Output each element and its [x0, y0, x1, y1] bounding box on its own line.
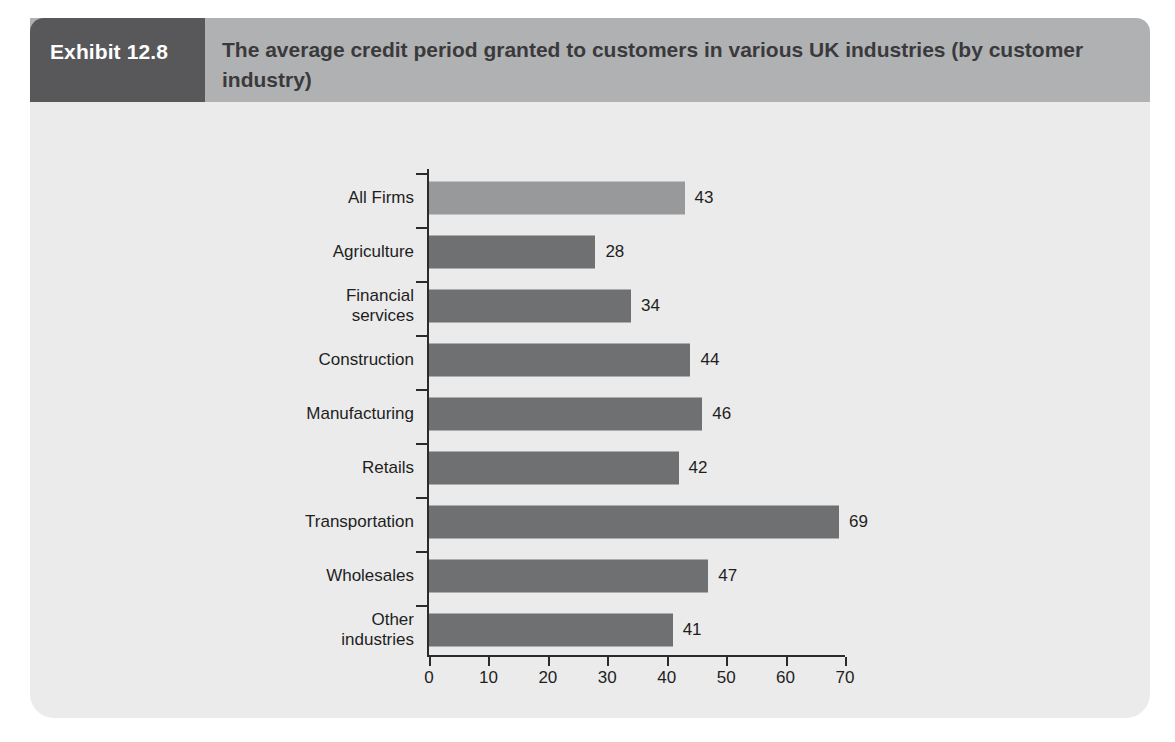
bar-row: Other industries41	[30, 603, 1150, 657]
bar	[429, 182, 685, 215]
y-axis-tick	[416, 281, 428, 283]
bar-value-label: 28	[605, 242, 624, 262]
y-axis-tick	[416, 605, 428, 607]
x-axis-tick	[845, 657, 847, 666]
x-axis-tick	[548, 657, 550, 666]
x-axis-tick	[488, 657, 490, 666]
bar-category-label: Financial services	[114, 286, 414, 326]
x-axis-tick-label: 10	[468, 668, 508, 688]
bar-category-label: Construction	[114, 350, 414, 370]
x-axis-tick-label: 50	[706, 668, 746, 688]
x-axis-tick-label: 30	[587, 668, 627, 688]
bar	[429, 506, 839, 539]
bar-value-label: 42	[689, 458, 708, 478]
bar-row: Retails42	[30, 441, 1150, 495]
bar-row: All Firms43	[30, 171, 1150, 225]
bar-value-label: 41	[683, 620, 702, 640]
y-axis-tick	[416, 389, 428, 391]
bar-category-label: Wholesales	[114, 566, 414, 586]
bar-row: Agriculture28	[30, 225, 1150, 279]
bar-category-label: Other industries	[114, 610, 414, 650]
x-axis-tick	[786, 657, 788, 666]
bar-value-label: 69	[849, 512, 868, 532]
exhibit-number-label: Exhibit 12.8	[50, 40, 168, 64]
bar-row: Construction44	[30, 333, 1150, 387]
exhibit-header: Exhibit 12.8 The average credit period g…	[30, 18, 1150, 102]
bar	[429, 290, 631, 323]
bar-category-label: Retails	[114, 458, 414, 478]
bar-value-label: 47	[718, 566, 737, 586]
bar-chart-plot: All Firms43Agriculture28Financial servic…	[30, 102, 1150, 718]
bar-value-label: 43	[695, 188, 714, 208]
bar-category-label: All Firms	[114, 188, 414, 208]
y-axis-tick	[416, 335, 428, 337]
exhibit-title: The average credit period granted to cus…	[222, 35, 1122, 95]
x-axis-tick-label: 70	[825, 668, 865, 688]
exhibit-panel: Exhibit 12.8 The average credit period g…	[30, 18, 1150, 718]
bar-row: Transportation69	[30, 495, 1150, 549]
x-axis-tick-label: 40	[647, 668, 687, 688]
bar-row: Financial services34	[30, 279, 1150, 333]
x-axis-tick	[667, 657, 669, 666]
bar	[429, 560, 708, 593]
bar-value-label: 44	[700, 350, 719, 370]
x-axis-tick	[429, 657, 431, 666]
chart-body: All Firms43Agriculture28Financial servic…	[30, 102, 1150, 718]
x-axis-tick	[607, 657, 609, 666]
bar	[429, 614, 673, 647]
y-axis-tick	[416, 551, 428, 553]
bar-value-label: 34	[641, 296, 660, 316]
bar-value-label: 46	[712, 404, 731, 424]
bar	[429, 452, 679, 485]
x-axis-tick-label: 0	[409, 668, 449, 688]
bar-category-label: Transportation	[114, 512, 414, 532]
bar	[429, 344, 690, 377]
bar	[429, 236, 595, 269]
x-axis-tick	[726, 657, 728, 666]
x-axis-tick-label: 60	[766, 668, 806, 688]
bar-category-label: Agriculture	[114, 242, 414, 262]
bar-category-label: Manufacturing	[114, 404, 414, 424]
bar	[429, 398, 702, 431]
y-axis-tick	[416, 227, 428, 229]
y-axis-tick	[416, 497, 428, 499]
y-axis-tick	[416, 443, 428, 445]
bar-row: Manufacturing46	[30, 387, 1150, 441]
bar-row: Wholesales47	[30, 549, 1150, 603]
x-axis-tick-label: 20	[528, 668, 568, 688]
y-axis-tick	[416, 173, 428, 175]
